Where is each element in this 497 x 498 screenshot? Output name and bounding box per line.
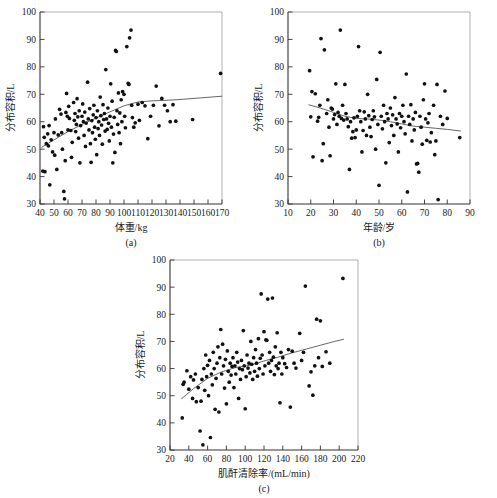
data-point bbox=[111, 161, 115, 165]
data-point bbox=[118, 111, 122, 115]
data-point bbox=[359, 120, 363, 124]
data-point bbox=[222, 364, 226, 368]
data-point bbox=[254, 348, 258, 352]
data-point bbox=[248, 371, 252, 375]
data-point bbox=[98, 95, 102, 99]
data-point bbox=[80, 114, 84, 118]
data-point bbox=[83, 110, 87, 114]
y-axis-label-c: 分布容积/L bbox=[134, 331, 146, 380]
data-point bbox=[96, 109, 100, 113]
data-point bbox=[376, 123, 380, 127]
data-point bbox=[207, 394, 211, 398]
data-point bbox=[321, 142, 325, 146]
x-tick-label-a: 60 bbox=[63, 208, 73, 218]
x-tick-label-a: 170 bbox=[215, 208, 230, 218]
data-point bbox=[209, 436, 213, 440]
data-point bbox=[333, 113, 337, 117]
data-point bbox=[338, 28, 342, 32]
data-point bbox=[242, 364, 246, 368]
axis-frame-b bbox=[288, 12, 470, 204]
data-point bbox=[326, 98, 330, 102]
data-point bbox=[163, 103, 167, 107]
data-point bbox=[298, 331, 302, 335]
data-point bbox=[288, 405, 292, 409]
data-point bbox=[89, 160, 93, 164]
data-point bbox=[319, 37, 323, 41]
y-tick-label-a: 40 bbox=[27, 172, 37, 182]
x-tick-label-c: 80 bbox=[222, 454, 232, 464]
y-tick-label-b: 70 bbox=[275, 90, 285, 100]
y-tick-label-b: 100 bbox=[270, 7, 285, 17]
data-point bbox=[108, 114, 112, 118]
x-tick-label-a: 130 bbox=[159, 208, 174, 218]
data-point bbox=[429, 131, 433, 135]
data-point bbox=[227, 380, 231, 384]
data-point bbox=[215, 361, 219, 365]
data-point bbox=[42, 125, 46, 129]
data-point bbox=[419, 125, 423, 129]
data-point bbox=[84, 121, 88, 125]
data-point bbox=[279, 350, 283, 354]
data-point bbox=[409, 103, 413, 107]
data-point bbox=[103, 112, 107, 116]
y-tick-label-b: 80 bbox=[275, 62, 285, 72]
x-tick-label-c: 40 bbox=[184, 454, 194, 464]
data-point bbox=[61, 147, 65, 151]
data-point bbox=[283, 362, 287, 366]
data-point bbox=[67, 105, 71, 109]
data-point bbox=[225, 349, 229, 353]
data-point bbox=[268, 350, 272, 354]
data-point bbox=[256, 374, 260, 378]
data-point bbox=[237, 397, 241, 401]
data-point bbox=[265, 338, 269, 342]
data-point bbox=[160, 97, 164, 101]
data-point bbox=[143, 104, 147, 108]
data-point bbox=[149, 114, 153, 118]
data-point bbox=[192, 378, 196, 382]
y-tick-label-a: 100 bbox=[22, 7, 37, 17]
data-point bbox=[182, 380, 186, 384]
data-point bbox=[220, 372, 224, 376]
data-point bbox=[304, 284, 308, 288]
data-point bbox=[332, 117, 336, 121]
panel-caption-b: (b) bbox=[373, 237, 385, 249]
data-point bbox=[302, 350, 306, 354]
data-point bbox=[357, 45, 361, 49]
data-point bbox=[310, 90, 314, 94]
data-point bbox=[119, 142, 123, 146]
data-point bbox=[377, 184, 381, 188]
data-point bbox=[368, 125, 372, 129]
data-point bbox=[138, 118, 142, 122]
data-point bbox=[112, 115, 116, 119]
data-point bbox=[414, 111, 418, 115]
data-point bbox=[208, 359, 212, 363]
axis-frame-c bbox=[170, 260, 358, 450]
data-point bbox=[308, 69, 312, 73]
data-point bbox=[362, 110, 366, 114]
data-point bbox=[317, 356, 321, 360]
data-point bbox=[269, 369, 273, 373]
data-point bbox=[234, 372, 238, 376]
data-point bbox=[320, 365, 324, 369]
data-point bbox=[245, 353, 249, 357]
panel-b: 30405060708090100102030405060708090分布容积/… bbox=[248, 0, 497, 250]
data-point bbox=[351, 130, 355, 134]
data-point bbox=[287, 348, 291, 352]
x-tick-label-a: 90 bbox=[105, 208, 115, 218]
data-point bbox=[49, 138, 53, 142]
data-point bbox=[110, 99, 114, 103]
data-point bbox=[204, 353, 208, 357]
data-point bbox=[290, 349, 294, 353]
x-axis-label-c: 肌酐清除率/(mL/min) bbox=[218, 467, 310, 480]
data-point bbox=[210, 372, 214, 376]
data-point bbox=[278, 401, 282, 405]
data-point bbox=[316, 119, 320, 123]
y-tick-label-c: 80 bbox=[157, 310, 167, 320]
data-point bbox=[385, 112, 389, 116]
data-point bbox=[129, 28, 133, 32]
data-point bbox=[412, 128, 416, 132]
data-point bbox=[104, 68, 108, 72]
data-point bbox=[90, 119, 94, 123]
data-point bbox=[157, 124, 161, 128]
data-point bbox=[199, 399, 203, 403]
